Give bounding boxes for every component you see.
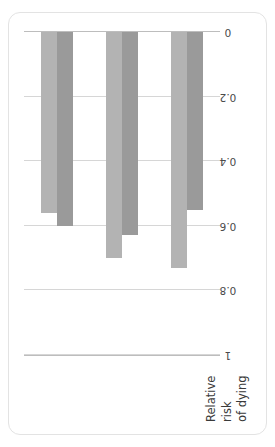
bar-chart: Relative risk of dying 10.80.60.40.20 No… (20, 24, 256, 424)
bar-women-weekly-religious-attendance (187, 32, 203, 210)
figure-frame: Relative risk of dying 10.80.60.40.20 No… (8, 12, 267, 435)
value-axis-title-line-3: of dying (234, 375, 249, 422)
bar-men-weekly-religious-attendance (171, 32, 187, 268)
plot-area (24, 32, 220, 356)
bar-men-regular-exercise (106, 32, 122, 258)
tick-label-0.8: 0.8 (219, 285, 236, 297)
bar-men-not-smoking (40, 32, 56, 213)
bar-women-not-smoking (56, 32, 72, 226)
gridline-1 (24, 354, 220, 355)
value-axis-title-line-1: Relative (204, 375, 219, 421)
chart-rotation-wrapper: Relative risk of dying 10.80.60.40.20 No… (20, 24, 256, 424)
value-axis-title-line-2: risk (219, 401, 234, 422)
tick-label-0.2: 0.2 (219, 91, 236, 103)
bar-women-regular-exercise (122, 32, 138, 235)
tick-label-0.6: 0.6 (219, 220, 236, 232)
tick-label-1: 1 (224, 350, 231, 362)
value-axis-title: Relative risk of dying (20, 356, 256, 422)
value-axis-tick-labels: 10.80.60.40.20 (220, 32, 250, 356)
tick-label-0: 0 (224, 27, 231, 39)
tick-label-0.4: 0.4 (219, 156, 236, 168)
gridline-0.8 (24, 289, 220, 290)
